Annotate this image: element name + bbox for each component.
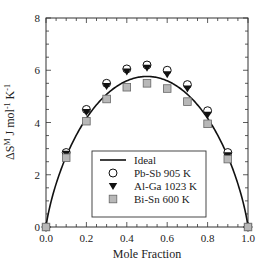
y-tick-label: 0 <box>35 221 41 233</box>
x-tick-label: 0.6 <box>160 232 174 244</box>
legend-label: Bi-Sn 600 K <box>134 193 190 205</box>
square-marker <box>123 83 131 91</box>
legend-label: Ideal <box>134 154 156 166</box>
x-tick-label: 0.0 <box>39 232 53 244</box>
x-axis-label: Mole Fraction <box>113 247 181 261</box>
down-triangle-marker <box>163 71 171 78</box>
square-marker <box>103 95 111 103</box>
x-tick-label: 0.4 <box>120 232 134 244</box>
chart: 0.00.20.40.60.81.002468 IdealPb-Sb 905 K… <box>0 0 268 278</box>
x-tick-label: 1.0 <box>241 232 255 244</box>
square-marker <box>143 80 151 88</box>
square-marker <box>109 195 117 203</box>
y-tick-label: 6 <box>35 64 41 76</box>
square-marker <box>62 154 70 162</box>
square-marker <box>204 120 212 128</box>
square-marker <box>224 155 232 163</box>
square-marker <box>244 223 252 231</box>
x-tick-label: 0.8 <box>201 232 215 244</box>
y-tick-label: 2 <box>35 169 41 181</box>
square-marker <box>42 223 50 231</box>
y-tick-label: 4 <box>35 117 41 129</box>
square-marker <box>184 98 192 106</box>
open-circle-marker <box>109 169 117 177</box>
legend-label: Pb-Sb 905 K <box>134 167 191 179</box>
x-tick-label: 0.2 <box>80 232 94 244</box>
y-axis-label: ΔSM J mol-1 K-1 <box>3 84 17 160</box>
legend: IdealPb-Sb 905 KAl-Ga 1023 KBi-Sn 600 K <box>92 151 206 217</box>
y-tick-label: 8 <box>35 12 41 24</box>
square-marker <box>163 85 171 93</box>
legend-label: Al-Ga 1023 K <box>134 180 197 192</box>
square-marker <box>83 117 91 125</box>
